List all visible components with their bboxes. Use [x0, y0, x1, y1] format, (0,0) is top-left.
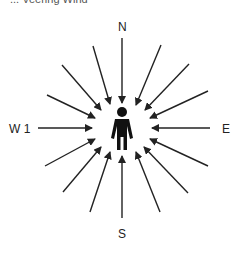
wind-diagram [0, 0, 244, 258]
person-icon [111, 107, 133, 150]
